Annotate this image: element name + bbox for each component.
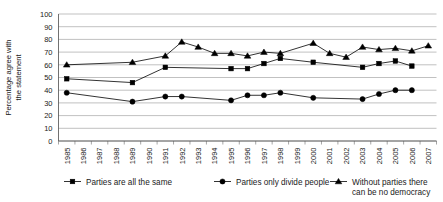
legend-marker bbox=[70, 179, 75, 184]
x-tick-label: 2001 bbox=[325, 148, 334, 165]
legend-marker bbox=[220, 179, 225, 184]
y-tick-label: 70 bbox=[44, 48, 52, 57]
x-tick-labels: 1985198619871988198919901991199219931994… bbox=[63, 148, 434, 165]
data-point bbox=[261, 93, 266, 98]
data-point bbox=[245, 66, 250, 71]
legend-label: Parties are all the same bbox=[86, 178, 172, 187]
x-tick-label: 1987 bbox=[95, 148, 104, 165]
data-point bbox=[163, 65, 168, 70]
data-point bbox=[130, 99, 135, 104]
data-point bbox=[228, 98, 233, 103]
x-tick-label: 1995 bbox=[227, 148, 236, 165]
x-tick-label: 2003 bbox=[358, 148, 367, 165]
data-point bbox=[163, 94, 168, 99]
line-chart: Percentage agree with the statement 0102… bbox=[0, 0, 443, 202]
x-tick-label: 1985 bbox=[63, 148, 72, 165]
chart-figure: Percentage agree with the statement 0102… bbox=[0, 0, 443, 202]
data-point bbox=[245, 93, 250, 98]
data-point bbox=[393, 59, 398, 64]
x-tick-label: 2007 bbox=[424, 148, 433, 165]
x-tick-label: 1990 bbox=[145, 148, 154, 165]
x-tick-label: 1988 bbox=[112, 148, 121, 165]
x-tick-label: 1999 bbox=[293, 148, 302, 165]
y-tick-label: 0 bbox=[48, 137, 52, 146]
data-point bbox=[360, 65, 365, 70]
y-tick-label: 30 bbox=[44, 99, 52, 108]
y-axis-title-line2: the statement bbox=[14, 54, 23, 101]
y-tick-label: 40 bbox=[44, 86, 52, 95]
legend-label-line2: can be no democracy bbox=[352, 188, 431, 197]
x-tick-label: 2004 bbox=[375, 148, 384, 165]
x-tick-label: 1996 bbox=[243, 148, 252, 165]
y-tick-label: 50 bbox=[44, 73, 52, 82]
data-point bbox=[376, 91, 381, 96]
x-tick-label: 2005 bbox=[391, 148, 400, 165]
y-tick-label: 100 bbox=[40, 10, 53, 19]
data-point bbox=[410, 64, 415, 69]
data-point bbox=[262, 61, 267, 66]
legend-label: Without parties there bbox=[352, 178, 428, 187]
x-tick-label: 1989 bbox=[128, 148, 137, 165]
x-tick-label: 1994 bbox=[210, 148, 219, 165]
data-point bbox=[377, 61, 382, 66]
y-tick-label: 20 bbox=[44, 111, 52, 120]
y-tick-label: 10 bbox=[44, 124, 52, 133]
x-tick-label: 2002 bbox=[342, 148, 351, 165]
data-point bbox=[311, 60, 316, 65]
x-tick-label: 1986 bbox=[79, 148, 88, 165]
y-tick-label: 60 bbox=[44, 61, 52, 70]
data-point bbox=[64, 76, 69, 81]
legend-label: Parties only divide people bbox=[236, 178, 330, 187]
x-tick-label: 1998 bbox=[276, 148, 285, 165]
data-point bbox=[179, 94, 184, 99]
x-tick-label: 1991 bbox=[161, 148, 170, 165]
data-point bbox=[409, 88, 414, 93]
data-point bbox=[278, 56, 283, 61]
x-tick-label: 1997 bbox=[260, 148, 269, 165]
chart-background bbox=[0, 0, 443, 202]
data-point bbox=[360, 97, 365, 102]
data-point bbox=[278, 90, 283, 95]
data-point bbox=[64, 90, 69, 95]
y-tick-label: 90 bbox=[44, 23, 52, 32]
x-tick-label: 2006 bbox=[408, 148, 417, 165]
data-point bbox=[130, 80, 135, 85]
y-axis-title-line1: Percentage agree with bbox=[4, 40, 13, 116]
y-tick-label: 80 bbox=[44, 35, 52, 44]
x-tick-label: 1992 bbox=[178, 148, 187, 165]
x-tick-label: 2000 bbox=[309, 148, 318, 165]
data-point bbox=[393, 88, 398, 93]
x-tick-label: 1993 bbox=[194, 148, 203, 165]
data-point bbox=[311, 95, 316, 100]
data-point bbox=[229, 66, 234, 71]
